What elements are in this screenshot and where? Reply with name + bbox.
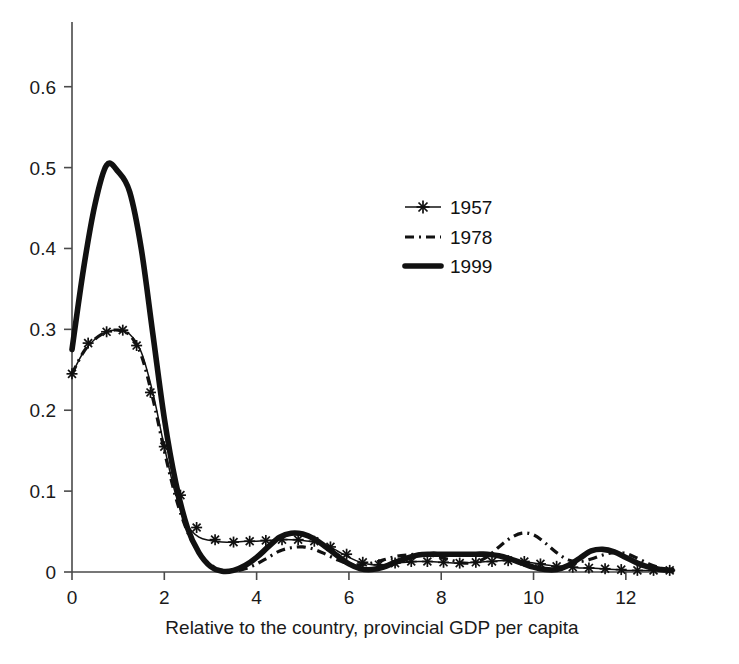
data-point-marker: [551, 561, 562, 572]
x-tick-label: 12: [615, 587, 636, 608]
data-point-marker: [583, 562, 594, 573]
data-point-marker: [191, 522, 202, 533]
data-point-marker: [175, 490, 186, 501]
x-tick-label: 10: [523, 587, 544, 608]
data-point-marker: [422, 556, 433, 567]
data-point-marker: [83, 338, 94, 349]
data-point-marker: [664, 565, 675, 576]
y-tick-label: 0.2: [30, 400, 56, 421]
data-point-marker: [567, 562, 578, 573]
data-point-marker: [325, 541, 336, 552]
data-point-marker: [535, 558, 546, 569]
series-line-1957: [72, 330, 672, 570]
x-tick-label: 2: [159, 587, 170, 608]
data-point-marker: [145, 387, 156, 398]
data-point-marker: [373, 559, 384, 570]
series-line-1978: [72, 330, 672, 571]
legend-label-1978: 1978: [450, 227, 492, 248]
data-point-marker: [244, 536, 255, 547]
y-tick-label: 0.4: [30, 238, 57, 259]
legend-entry-1978: 1978: [405, 227, 492, 248]
y-tick-label: 0.6: [30, 77, 56, 98]
data-point-marker: [260, 535, 271, 546]
data-point-marker: [632, 565, 643, 576]
series-group: [67, 163, 676, 576]
data-point-marker: [309, 536, 320, 547]
axis-lines: [72, 22, 672, 572]
y-axis-ticks: 00.10.20.30.40.50.6: [30, 77, 72, 583]
data-point-marker: [293, 534, 304, 545]
data-point-marker: [277, 534, 288, 545]
data-point-marker: [67, 368, 78, 379]
data-point-marker: [648, 565, 659, 576]
data-point-marker: [101, 326, 112, 337]
data-point-marker: [228, 537, 239, 548]
x-tick-label: 4: [251, 587, 262, 608]
data-point-marker: [454, 558, 465, 569]
data-point-marker: [470, 557, 481, 568]
x-tick-label: 0: [67, 587, 78, 608]
y-tick-label: 0.3: [30, 319, 56, 340]
x-axis-ticks: 024681012: [67, 572, 637, 608]
data-point-marker: [519, 556, 530, 567]
data-point-marker: [503, 555, 514, 566]
data-point-marker: [390, 558, 401, 569]
data-point-marker: [438, 557, 449, 568]
data-point-marker: [600, 563, 611, 574]
x-axis-title: Relative to the country, provincial GDP …: [165, 617, 579, 638]
legend-label-1957: 1957: [450, 197, 492, 218]
x-tick-label: 6: [344, 587, 355, 608]
data-point-marker: [131, 340, 142, 351]
data-point-marker: [341, 549, 352, 560]
legend-entry-1957: 1957: [405, 197, 492, 218]
legend: 1957 1978 1999: [405, 197, 492, 277]
y-tick-label: 0: [45, 562, 56, 583]
chart-figure: 00.10.20.30.40.50.6 024681012 Relative t…: [0, 0, 739, 664]
data-point-marker: [357, 557, 368, 568]
legend-swatch-1957-plus-icon: [417, 201, 430, 214]
legend-entry-1999: 1999: [405, 256, 492, 277]
data-point-marker: [616, 564, 627, 575]
data-point-marker: [406, 556, 417, 567]
legend-label-1999: 1999: [450, 256, 492, 277]
data-point-marker: [487, 556, 498, 567]
data-point-marker: [210, 534, 221, 545]
data-point-marker: [117, 325, 128, 336]
density-plot: 00.10.20.30.40.50.6 024681012 Relative t…: [0, 0, 739, 664]
series-line-1999: [72, 163, 672, 571]
data-point-marker: [159, 441, 170, 452]
y-tick-label: 0.5: [30, 158, 56, 179]
y-tick-label: 0.1: [30, 481, 56, 502]
x-tick-label: 8: [436, 587, 447, 608]
